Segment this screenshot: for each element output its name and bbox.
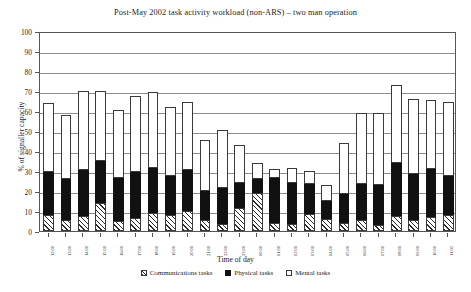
bar-segment[interactable] xyxy=(304,184,315,214)
bar-segment[interactable] xyxy=(252,163,263,179)
bar-segment[interactable] xyxy=(182,211,193,231)
bar-segment[interactable] xyxy=(113,178,124,221)
bar-segment[interactable] xyxy=(304,214,315,231)
bar-group[interactable] xyxy=(287,31,298,231)
bar-segment[interactable] xyxy=(217,224,228,231)
bar-segment[interactable] xyxy=(200,140,211,191)
bar-segment[interactable] xyxy=(200,191,211,220)
bar-segment[interactable] xyxy=(321,185,332,201)
bar-segment[interactable] xyxy=(408,220,419,231)
bar-segment[interactable] xyxy=(113,221,124,231)
bar-segment[interactable] xyxy=(165,107,176,176)
bar-segment[interactable] xyxy=(339,194,350,223)
bar-group[interactable] xyxy=(269,31,280,231)
bar-group[interactable] xyxy=(408,31,419,231)
bar-segment[interactable] xyxy=(61,179,72,220)
bar-segment[interactable] xyxy=(287,168,298,183)
bar-group[interactable] xyxy=(165,31,176,231)
bar-segment[interactable] xyxy=(356,184,367,220)
bar-segment[interactable] xyxy=(61,115,72,179)
bar-segment[interactable] xyxy=(165,176,176,215)
bar-segment[interactable] xyxy=(443,176,454,215)
bar-segment[interactable] xyxy=(95,203,106,231)
bar-segment[interactable] xyxy=(217,188,228,224)
bar-segment[interactable] xyxy=(43,215,54,231)
bar-group[interactable] xyxy=(182,31,193,231)
bar-segment[interactable] xyxy=(443,215,454,231)
bar-segment[interactable] xyxy=(130,172,141,218)
bar-segment[interactable] xyxy=(148,92,159,168)
bar-segment[interactable] xyxy=(217,130,228,188)
bar-segment[interactable] xyxy=(78,170,89,216)
bar-segment[interactable] xyxy=(408,99,419,174)
bar-segment[interactable] xyxy=(269,223,280,231)
bar-segment[interactable] xyxy=(391,216,402,231)
bar-group[interactable] xyxy=(234,31,245,231)
bar-group[interactable] xyxy=(356,31,367,231)
bar-segment[interactable] xyxy=(113,110,124,178)
bar-segment[interactable] xyxy=(43,103,54,172)
bar-group[interactable] xyxy=(252,31,263,231)
bar-group[interactable] xyxy=(443,31,454,231)
bar-segment[interactable] xyxy=(443,102,454,176)
bar-segment[interactable] xyxy=(130,96,141,172)
bar-group[interactable] xyxy=(200,31,211,231)
bar-segment[interactable] xyxy=(373,185,384,225)
bar-group[interactable] xyxy=(130,31,141,231)
bar-group[interactable] xyxy=(78,31,89,231)
bar-segment[interactable] xyxy=(200,220,211,231)
bar-group[interactable] xyxy=(43,31,54,231)
bar-segment[interactable] xyxy=(95,91,106,161)
bar-group[interactable] xyxy=(217,31,228,231)
bar-segment[interactable] xyxy=(269,178,280,223)
bar-segment[interactable] xyxy=(252,193,263,231)
bar-group[interactable] xyxy=(304,31,315,231)
bar-segment[interactable] xyxy=(408,174,419,220)
bar-segment[interactable] xyxy=(426,169,437,217)
bar-group[interactable] xyxy=(61,31,72,231)
bar-segment[interactable] xyxy=(339,143,350,194)
bar-segment[interactable] xyxy=(182,170,193,211)
bar-segment[interactable] xyxy=(287,183,298,224)
bar-group[interactable] xyxy=(391,31,402,231)
bar-segment[interactable] xyxy=(61,220,72,231)
bar-segment[interactable] xyxy=(148,168,159,213)
bar-segment[interactable] xyxy=(234,208,245,231)
bar-group[interactable] xyxy=(113,31,124,231)
bar-segment[interactable] xyxy=(78,216,89,231)
bar-segment[interactable] xyxy=(304,171,315,184)
legend-item[interactable]: Physical tasks xyxy=(225,269,273,276)
bar-group[interactable] xyxy=(321,31,332,231)
bar-segment[interactable] xyxy=(391,163,402,216)
bar-segment[interactable] xyxy=(373,113,384,185)
bar-segment[interactable] xyxy=(321,219,332,231)
bar-segment[interactable] xyxy=(391,85,402,163)
bar-segment[interactable] xyxy=(339,223,350,231)
bar-segment[interactable] xyxy=(95,161,106,203)
bar-segment[interactable] xyxy=(287,224,298,231)
bar-segment[interactable] xyxy=(356,220,367,231)
legend-item[interactable]: Communications tasks xyxy=(141,269,213,276)
bar-segment[interactable] xyxy=(234,183,245,208)
bar-segment[interactable] xyxy=(426,217,437,231)
bar-group[interactable] xyxy=(426,31,437,231)
legend-item[interactable]: Mental tasks xyxy=(286,269,330,276)
bar-group[interactable] xyxy=(95,31,106,231)
bar-segment[interactable] xyxy=(269,169,280,178)
bar-segment[interactable] xyxy=(182,102,193,170)
bar-group[interactable] xyxy=(339,31,350,231)
bar-segment[interactable] xyxy=(252,179,263,193)
bar-segment[interactable] xyxy=(234,145,245,183)
bar-segment[interactable] xyxy=(130,218,141,231)
bar-group[interactable] xyxy=(373,31,384,231)
y-axis-tick: 60 xyxy=(25,108,32,117)
bar-segment[interactable] xyxy=(356,113,367,184)
bar-segment[interactable] xyxy=(321,201,332,219)
bar-group[interactable] xyxy=(148,31,159,231)
bar-segment[interactable] xyxy=(148,213,159,231)
bar-segment[interactable] xyxy=(43,172,54,215)
bar-segment[interactable] xyxy=(426,100,437,169)
bar-segment[interactable] xyxy=(78,91,89,170)
bar-segment[interactable] xyxy=(165,215,176,231)
bar-segment[interactable] xyxy=(373,225,384,231)
